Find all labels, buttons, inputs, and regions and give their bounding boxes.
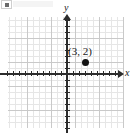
y-axis-tick [65,110,70,111]
x-axis-tick [49,71,50,76]
x-axis-tick [61,71,62,76]
x-axis-tick [25,71,26,76]
y-axis-tick [65,20,70,21]
y-axis-tick [65,116,70,117]
x-axis-tick [79,71,80,76]
coordinate-plane-figure: (3, 2) x y [0,0,133,135]
y-axis-tick [65,32,70,33]
y-axis-tick [65,92,70,93]
y-axis-tick [65,38,70,39]
y-axis-tick [65,86,70,87]
y-axis-tick [65,26,70,27]
x-axis-tick [43,71,44,76]
y-axis-tick [65,68,70,69]
x-axis-tick [31,71,32,76]
x-axis-tick [103,71,104,76]
x-axis-tick [85,71,86,76]
y-axis-tick [65,62,70,63]
x-axis-line [0,73,120,75]
y-axis-tick [65,122,70,123]
x-axis-label: x [125,67,129,78]
x-axis-tick [19,71,20,76]
y-axis-tick [65,128,70,129]
y-axis-tick [65,98,70,99]
y-axis-tick [65,104,70,105]
x-axis-tick [13,71,14,76]
x-axis-tick [115,71,116,76]
x-axis-tick [73,71,74,76]
x-axis-tick [91,71,92,76]
x-axis-tick [97,71,98,76]
plotted-point-label: (3, 2) [68,45,92,57]
scan-artifact-icon [1,0,12,9]
x-axis-tick [37,71,38,76]
x-axis-tick [7,71,8,76]
y-axis-tick [65,80,70,81]
plotted-point-marker [82,59,89,66]
x-axis-arrow-icon [118,70,124,78]
y-axis-label: y [64,2,68,13]
x-axis-tick [55,71,56,76]
scan-artifact-smudge [13,1,53,7]
x-axis-tick [109,71,110,76]
